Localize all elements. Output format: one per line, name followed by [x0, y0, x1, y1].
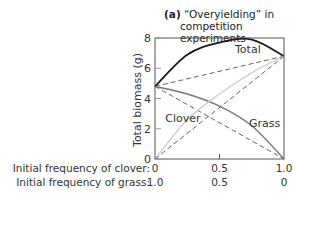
x-tick-label: 1.0 [145, 176, 165, 188]
y-tick-label: 6 [144, 62, 151, 75]
series-annotations: TotalCloverGrass [165, 43, 280, 130]
y-tick-label: 2 [144, 123, 151, 136]
y-axis-ticks: 02468 [144, 32, 161, 166]
y-tick-label: 4 [144, 93, 151, 106]
y-tick-label: 8 [144, 32, 151, 45]
x-row-label: Initial frequency of clover: [13, 162, 150, 174]
x-tick-label: 0 [145, 162, 165, 174]
series-line-total [155, 39, 284, 87]
annotation-grass: Grass [249, 117, 281, 130]
x-row-label: Initial frequency of grass: [16, 176, 150, 188]
plot-frame [155, 38, 284, 159]
annotation-total: Total [234, 43, 261, 56]
x-tick-label: 0 [274, 176, 294, 188]
x-tick-label: 1.0 [274, 162, 294, 174]
x-tick-label: 0.5 [210, 176, 230, 188]
annotation-clover: Clover [165, 112, 201, 125]
data-series [155, 39, 284, 159]
y-axis-label: Total biomass (g) [131, 53, 144, 148]
x-tick-label: 0.5 [210, 162, 230, 174]
